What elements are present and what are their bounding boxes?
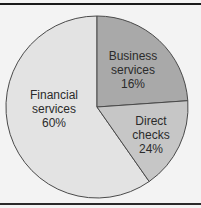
label-direct-checks-value: 24% [132, 142, 169, 156]
label-financial-services-value: 60% [30, 116, 78, 130]
label-business-services-line1: Business [109, 49, 158, 63]
label-financial-services-line2: services [30, 102, 78, 116]
label-direct-checks: Direct checks 24% [132, 114, 169, 156]
label-business-services-value: 16% [109, 77, 158, 91]
label-direct-checks-line2: checks [132, 128, 169, 142]
chart-frame: Business services 16% Direct checks 24% … [0, 0, 201, 208]
label-financial-services-line1: Financial [30, 88, 78, 102]
label-business-services-line2: services [109, 63, 158, 77]
label-financial-services: Financial services 60% [30, 88, 78, 130]
bottom-rule [0, 203, 201, 205]
label-business-services: Business services 16% [109, 49, 158, 91]
label-direct-checks-line1: Direct [132, 114, 169, 128]
